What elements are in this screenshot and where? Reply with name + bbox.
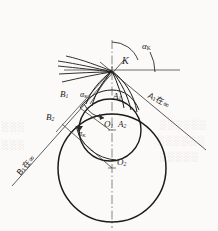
a1-subscript: 1 [119,95,122,101]
label-a1: A1 [113,92,121,102]
label-alpha-k-low: αK [78,130,86,139]
label-b1: B1 [60,90,68,100]
alpha-subscript-mid: K [84,94,88,99]
angle-arc-alpha-k-top-outer [150,52,155,72]
b2-subscript: 2 [52,116,55,122]
o1-subscript: 1 [111,123,114,129]
o2-subscript: 2 [124,161,127,167]
b1-subscript: 1 [66,93,69,99]
label-point-k: K [122,56,129,66]
tangent-line-a1-infinity [100,62,206,150]
alpha-subscript-top: K [147,45,151,51]
label-alpha-k-top: αK [142,42,151,52]
label-b2: B2 [46,113,54,123]
alpha-subscript-low: K [82,133,86,138]
involute-curve-2 [58,66,112,72]
figure-canvas: ░░░░░░ ░░░░░░ ░░░░░ ░░░ ░░░ [0,0,218,231]
label-o1: O1 [104,120,113,130]
label-o2: O2 [117,158,126,168]
diagram-svg [0,0,218,231]
a2-subscript: 2 [124,123,127,129]
label-alpha-k-mid: αK [80,91,88,100]
label-a2: A2 [118,120,126,130]
